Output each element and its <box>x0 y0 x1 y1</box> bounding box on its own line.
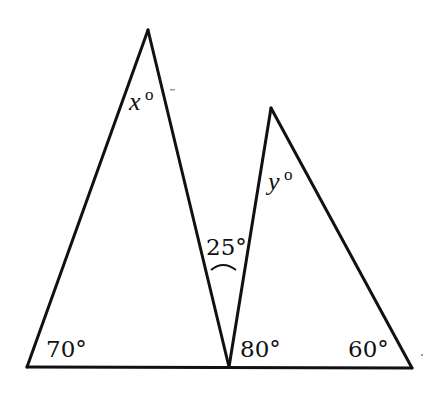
right-triangle-right-side <box>271 108 412 368</box>
scan-speck <box>170 89 175 91</box>
label-y-variable: y <box>265 167 280 196</box>
label-y-angle: y o <box>265 165 293 196</box>
label-angle-70: 70° <box>46 336 87 362</box>
label-x-angle: x o <box>128 85 154 116</box>
label-x-degree: o <box>145 85 154 104</box>
left-triangle-left-side <box>27 30 148 367</box>
label-y-degree: o <box>284 165 293 184</box>
label-angle-60: 60° <box>348 336 389 362</box>
geometry-diagram: x o y o 25° 70° 80° 60° <box>0 0 433 394</box>
label-angle-80: 80° <box>240 336 281 362</box>
angle-arc-25 <box>211 265 236 270</box>
label-angle-25: 25° <box>206 234 247 260</box>
scan-speck <box>421 354 423 356</box>
left-triangle-right-side <box>148 30 229 367</box>
label-x-variable: x <box>128 87 141 116</box>
baseline <box>27 367 412 368</box>
